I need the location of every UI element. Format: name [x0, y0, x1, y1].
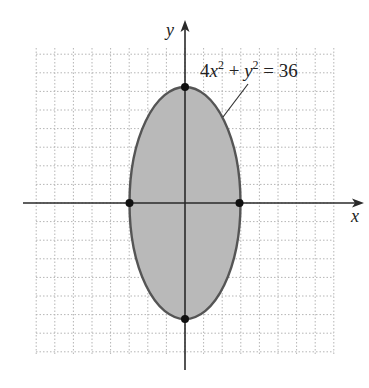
equation-leader-line: [223, 84, 248, 117]
covertex-right: [236, 199, 244, 207]
y-axis-label: y: [164, 20, 174, 40]
covertex-left: [126, 199, 134, 207]
x-axis-label: x: [350, 206, 359, 226]
vertex-bottom: [181, 315, 189, 323]
ellipse-graph: x y 4x2 + y2 = 36: [0, 0, 369, 388]
equation-label: 4x2 + y2 = 36: [200, 58, 298, 81]
vertex-top: [181, 83, 189, 91]
